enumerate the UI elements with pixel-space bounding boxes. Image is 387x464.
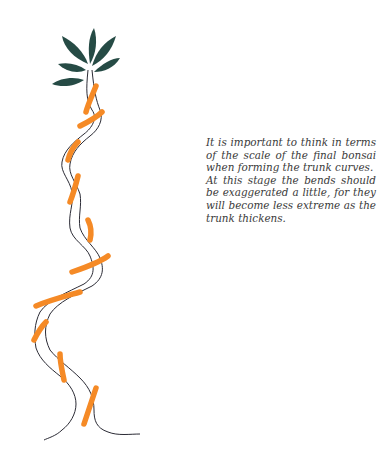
leaves-icon xyxy=(52,28,120,86)
caption-paragraph-1: It is important to think in terms of the… xyxy=(206,136,376,174)
wire xyxy=(34,86,108,424)
trunk-outline xyxy=(35,70,140,440)
caption: It is important to think in terms of the… xyxy=(206,136,376,224)
caption-paragraph-2: At this stage the bends should be exagge… xyxy=(206,174,376,224)
bonsai-trunk-illustration xyxy=(0,0,387,464)
